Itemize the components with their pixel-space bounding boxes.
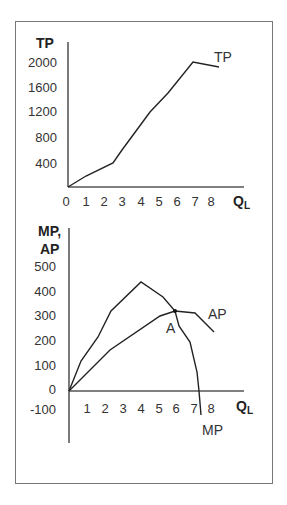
mp-ap-chart: MP, AP 500 400 300 200 100 0 -100 1 2 3 … xyxy=(30,223,253,443)
mp-ap-y-title-line2: AP xyxy=(40,241,59,257)
mp-curve xyxy=(69,282,201,415)
x-tick: 5 xyxy=(155,401,162,416)
tp-x-title: QL xyxy=(233,193,250,211)
y-tick: 400 xyxy=(34,284,56,299)
y-tick: 1600 xyxy=(28,80,57,95)
x-tick: 1 xyxy=(83,401,90,416)
y-tick: 2000 xyxy=(28,55,57,70)
y-tick: 100 xyxy=(34,358,56,373)
tp-x-tick-labels: 0 1 2 3 4 5 6 7 8 xyxy=(62,194,214,209)
x-tick: 4 xyxy=(137,401,144,416)
mp-ap-x-title: QL xyxy=(236,398,253,416)
y-tick: 800 xyxy=(35,130,57,145)
y-tick: -100 xyxy=(30,402,56,417)
tp-y-title: TP xyxy=(36,35,54,51)
x-tick: 2 xyxy=(100,194,107,209)
x-tick: 3 xyxy=(118,194,125,209)
x-tick: 7 xyxy=(191,194,198,209)
x-tick: 2 xyxy=(101,401,108,416)
x-tick: 6 xyxy=(172,401,179,416)
point-a-label: A xyxy=(166,320,176,336)
y-tick: 1200 xyxy=(28,104,57,119)
tp-chart: TP 2000 1600 1200 800 400 0 1 2 3 4 5 6 … xyxy=(28,35,250,211)
x-tick: 3 xyxy=(119,401,126,416)
production-curves-figure: TP 2000 1600 1200 800 400 0 1 2 3 4 5 6 … xyxy=(0,0,287,505)
y-tick: 200 xyxy=(34,333,56,348)
mp-ap-x-tick-labels: 1 2 3 4 5 6 7 8 xyxy=(83,401,214,416)
ap-curve-label: AP xyxy=(208,306,227,322)
y-tick: 500 xyxy=(34,259,56,274)
x-tick: 5 xyxy=(155,194,162,209)
x-tick: 7 xyxy=(190,401,197,416)
tp-y-tick-labels: 2000 1600 1200 800 400 xyxy=(28,55,57,171)
x-tick: 1 xyxy=(82,194,89,209)
y-tick: 0 xyxy=(49,382,56,397)
y-tick: 300 xyxy=(34,308,56,323)
x-tick: 6 xyxy=(173,194,180,209)
mp-curve-label: MP xyxy=(202,422,223,438)
y-tick: 400 xyxy=(35,156,57,171)
x-tick: 8 xyxy=(207,401,214,416)
x-tick: 0 xyxy=(62,194,69,209)
mp-ap-y-tick-labels: 500 400 300 200 100 0 -100 xyxy=(30,259,56,417)
point-a-marker xyxy=(173,309,177,313)
x-tick: 8 xyxy=(207,194,214,209)
mp-ap-y-title-line1: MP, xyxy=(38,223,61,239)
tp-curve-label: TP xyxy=(214,49,232,65)
x-tick: 4 xyxy=(137,194,144,209)
tp-curve xyxy=(68,62,219,187)
